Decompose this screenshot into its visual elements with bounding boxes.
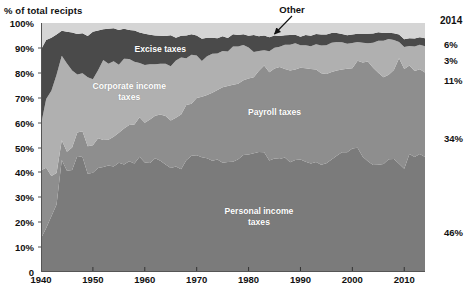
chart-page: % of total recipts 010%20%30%40%50%60%70…: [0, 0, 476, 302]
y-tick-label: 80%: [15, 67, 34, 78]
y-axis: 010%20%30%40%50%60%70%80%90%100%: [0, 23, 38, 272]
plot-area: Excise taxesCorporate income taxesPayrol…: [41, 23, 425, 272]
end-label-corporate-income-taxes: 11%: [444, 75, 463, 86]
x-tick-label: 2000: [342, 274, 363, 285]
y-tick-label: 10%: [15, 242, 34, 253]
x-tick-label: 1980: [238, 274, 259, 285]
x-axis: 19401950196019701980199020002010: [41, 274, 425, 290]
y-tick-label: 70%: [15, 92, 34, 103]
y-tick-label: 60%: [15, 117, 34, 128]
x-tick-label: 1990: [290, 274, 311, 285]
end-value-labels: 2014 6%3%11%34%46%: [428, 0, 476, 302]
y-tick-label: 40%: [15, 167, 34, 178]
end-label-personal-income-taxes: 46%: [444, 227, 463, 238]
end-label-other: 6%: [444, 39, 458, 50]
stacked-area-svg: [41, 23, 425, 272]
x-tick-label: 1940: [30, 274, 51, 285]
x-tick-label: 1950: [82, 274, 103, 285]
other-callout-label: Other: [279, 4, 304, 15]
end-label-excise-taxes: 3%: [444, 55, 458, 66]
x-tick-label: 1970: [186, 274, 207, 285]
y-axis-title: % of total recipts: [4, 5, 82, 16]
x-tick-label: 1960: [134, 274, 155, 285]
y-tick-label: 100%: [10, 18, 34, 29]
end-year-label: 2014: [440, 15, 462, 26]
x-tick-label: 2010: [394, 274, 415, 285]
y-tick-label: 20%: [15, 217, 34, 228]
y-tick-label: 50%: [15, 142, 34, 153]
y-tick-label: 90%: [15, 42, 34, 53]
end-label-payroll-taxes: 34%: [444, 133, 463, 144]
y-tick-label: 30%: [15, 192, 34, 203]
